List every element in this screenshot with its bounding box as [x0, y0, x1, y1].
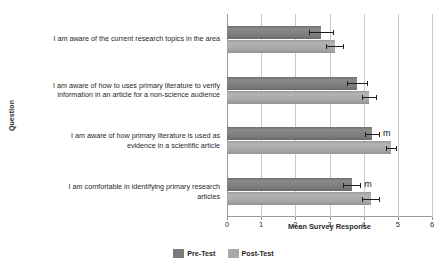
error-bar-cap — [362, 197, 363, 202]
legend-item-post-test[interactable]: Post-Test — [228, 249, 274, 258]
category-label: I am aware of how primary literature is … — [14, 131, 220, 150]
legend-swatch-icon — [228, 249, 239, 258]
category-label: I am comfortable in identifying primary … — [14, 182, 220, 201]
gridline — [432, 14, 433, 217]
error-bar-cap — [365, 132, 366, 137]
bar-post-0 — [227, 40, 335, 53]
legend-label: Post-Test — [242, 249, 274, 258]
error-bar-cap — [379, 197, 380, 202]
legend-label: Pre-Test — [187, 249, 215, 258]
bar-chart: Question I am aware of the current resea… — [0, 0, 447, 274]
error-bar-cap — [343, 44, 344, 49]
gridline — [398, 14, 399, 217]
error-bar-cap — [396, 146, 397, 151]
error-bar — [365, 134, 379, 135]
error-bar-cap — [326, 44, 327, 49]
error-bar — [386, 148, 396, 149]
bar-post-2 — [227, 141, 391, 154]
bar-pre-0 — [227, 26, 321, 39]
x-axis-title: Mean Survey Response — [227, 222, 432, 231]
error-bar — [326, 46, 343, 47]
error-bar-cap — [376, 95, 377, 100]
bar-post-1 — [227, 91, 369, 104]
category-label: I am aware of the current research topic… — [14, 34, 220, 44]
error-bar — [362, 97, 376, 98]
error-bar-cap — [333, 30, 334, 35]
significance-marker: m — [364, 180, 372, 189]
error-bar-cap — [379, 132, 380, 137]
error-bar-cap — [360, 183, 361, 188]
category-label: I am aware of how to uses primary litera… — [14, 81, 220, 100]
legend-item-pre-test[interactable]: Pre-Test — [173, 249, 215, 258]
error-bar-cap — [362, 95, 363, 100]
error-bar — [309, 32, 333, 33]
bar-post-3 — [227, 192, 371, 205]
error-bar-cap — [367, 81, 368, 86]
error-bar-cap — [386, 146, 387, 151]
category-label-list: I am aware of the current research topic… — [12, 14, 224, 217]
bar-pre-1 — [227, 77, 357, 90]
error-bar — [347, 83, 368, 84]
error-bar-cap — [343, 183, 344, 188]
error-bar-cap — [309, 30, 310, 35]
chart-legend: Pre-TestPost-Test — [0, 249, 447, 258]
error-bar-cap — [347, 81, 348, 86]
significance-marker: m — [383, 129, 391, 138]
legend-swatch-icon — [173, 249, 184, 258]
error-bar — [362, 199, 379, 200]
bar-pre-3 — [227, 178, 352, 191]
bar-pre-2 — [227, 127, 372, 140]
error-bar — [343, 185, 360, 186]
